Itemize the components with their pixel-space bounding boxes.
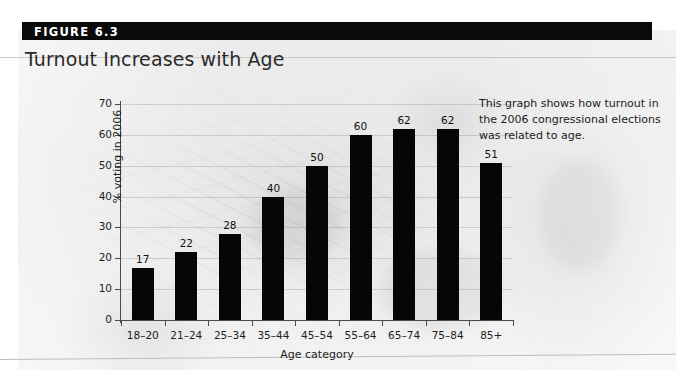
bar-value-label: 28 — [210, 219, 250, 231]
x-axis-category-label: 85+ — [463, 329, 519, 341]
x-axis-tick — [382, 321, 383, 326]
bar — [175, 252, 197, 320]
figure-number-label: FIGURE 6.3 — [34, 25, 119, 39]
bar — [480, 163, 502, 320]
bar — [350, 135, 372, 320]
chart-plot-area — [121, 104, 513, 320]
y-axis-tick-label: 70 — [82, 97, 112, 109]
x-axis-tick — [339, 321, 340, 326]
x-axis-tick — [295, 321, 296, 326]
x-axis-tick — [208, 321, 209, 326]
bar-value-label: 51 — [471, 148, 511, 160]
bar — [306, 166, 328, 320]
x-axis-tick — [469, 321, 470, 326]
y-axis-tick-label: 10 — [82, 282, 112, 294]
figure-annotation: This graph shows how turnout in the 2006… — [479, 96, 661, 144]
y-axis-tick-label: 0 — [82, 313, 112, 325]
bar-value-label: 17 — [123, 253, 163, 265]
figure-number-bar: FIGURE 6.3 — [22, 22, 652, 40]
x-axis-tick — [165, 321, 166, 326]
y-axis-tick-label: 60 — [82, 128, 112, 140]
bar-value-label: 50 — [297, 151, 337, 163]
figure-title: Turnout Increases with Age — [25, 48, 284, 70]
x-axis-line — [120, 320, 514, 321]
figure-page: FIGURE 6.3 Turnout Increases with Age 01… — [0, 0, 676, 389]
x-axis-tick — [121, 321, 122, 326]
bar — [262, 197, 284, 320]
x-axis-tick — [513, 321, 514, 326]
y-axis-tick-label: 20 — [82, 251, 112, 263]
y-axis-tick-label: 30 — [82, 220, 112, 232]
bar-value-label: 62 — [428, 114, 468, 126]
bar-value-label: 22 — [166, 237, 206, 249]
y-axis-tick-label: 50 — [82, 159, 112, 171]
y-axis-title: % voting in 2006 — [111, 92, 124, 222]
bar — [219, 234, 241, 320]
y-axis-tick-label: 40 — [82, 190, 112, 202]
bar-value-label: 60 — [341, 120, 381, 132]
x-axis-tick — [252, 321, 253, 326]
bar — [132, 268, 154, 320]
bar-value-label: 62 — [384, 114, 424, 126]
bar-value-label: 40 — [253, 182, 293, 194]
x-axis-tick — [426, 321, 427, 326]
x-axis-title: Age category — [247, 348, 387, 361]
bar — [393, 129, 415, 320]
bar — [437, 129, 459, 320]
